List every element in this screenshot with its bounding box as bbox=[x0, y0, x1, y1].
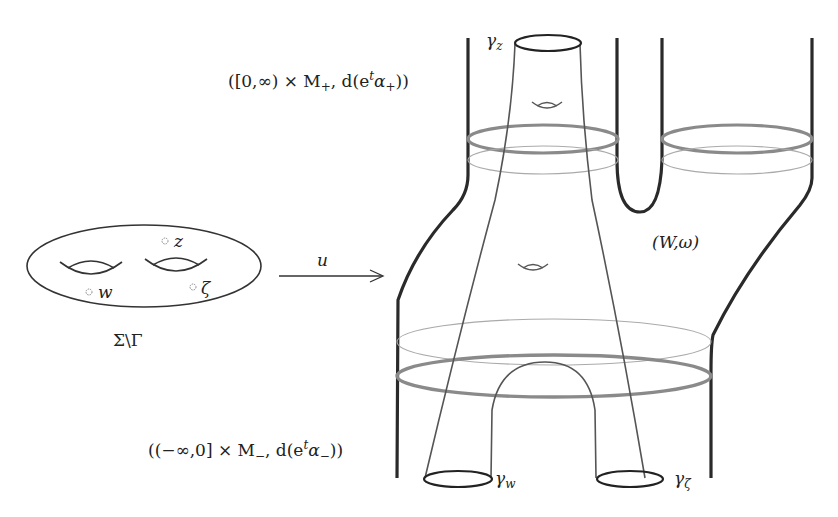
map-label: u bbox=[317, 250, 328, 270]
cobordism-diagram: z w ζ Σ\Γ u bbox=[0, 0, 838, 517]
negative-boundary-ring bbox=[397, 319, 711, 365]
handle-icon bbox=[60, 261, 122, 274]
orbit-gamma-z bbox=[515, 35, 581, 51]
puncture-label-zeta: ζ bbox=[201, 278, 212, 298]
positive-boundary-ring-right bbox=[662, 146, 812, 174]
negative-end-rings bbox=[397, 319, 711, 397]
negative-level-ring bbox=[397, 355, 711, 397]
puncture-label-w: w bbox=[98, 282, 113, 302]
handle-icon bbox=[532, 102, 562, 108]
holomorphic-curve bbox=[425, 44, 645, 478]
positive-end-rings bbox=[468, 125, 812, 174]
orbit-label-gamma-zeta: γζ bbox=[674, 468, 692, 491]
orbit-label-gamma-z: γz bbox=[486, 30, 503, 53]
puncture-icon bbox=[190, 284, 196, 290]
negative-end-label: ((−∞,0] × M−, d(etα−)) bbox=[148, 438, 343, 463]
target-label: (W,ω) bbox=[652, 232, 699, 252]
puncture-label-z: z bbox=[173, 231, 184, 251]
surface-outline bbox=[27, 225, 261, 307]
handle-icon bbox=[145, 258, 207, 271]
surface-label: Σ\Γ bbox=[113, 330, 143, 350]
puncture-icon bbox=[162, 238, 168, 244]
positive-level-ring-right bbox=[662, 125, 812, 153]
positive-end-label: ([0,∞) × M+, d(etα+)) bbox=[228, 69, 409, 94]
orbit-gamma-w bbox=[424, 471, 492, 487]
map-arrow: u bbox=[279, 250, 383, 282]
puncture-icon bbox=[86, 289, 92, 295]
orbit-label-gamma-w: γw bbox=[495, 468, 516, 491]
domain-surface: z w ζ Σ\Γ bbox=[27, 225, 261, 350]
orbit-gamma-zeta bbox=[597, 471, 663, 487]
handle-icon bbox=[518, 264, 548, 270]
positive-level-ring-left bbox=[468, 125, 618, 153]
positive-boundary-ring-left bbox=[468, 146, 618, 174]
